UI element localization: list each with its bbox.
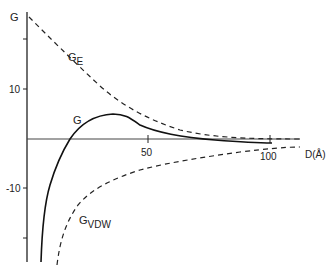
x-axis-label: D(Å) [305,148,326,160]
y-axis-label: G [10,11,19,23]
label-ge: GE [68,51,84,67]
label-g: G [73,114,82,126]
x-tick-label-100: 100 [260,151,277,162]
y-tick-label-neg10: -10 [6,183,21,194]
chart-canvas: G 10 -10 50 100 D(Å) GE G GVDW [0,0,336,273]
series-gvdw-curve [57,147,300,265]
x-tick-label-50: 50 [141,147,153,158]
y-tick-label-10: 10 [9,84,21,95]
series-g-curve [41,114,272,262]
series-ge-curve [29,17,300,139]
label-gvdw: GVDW [79,214,111,230]
